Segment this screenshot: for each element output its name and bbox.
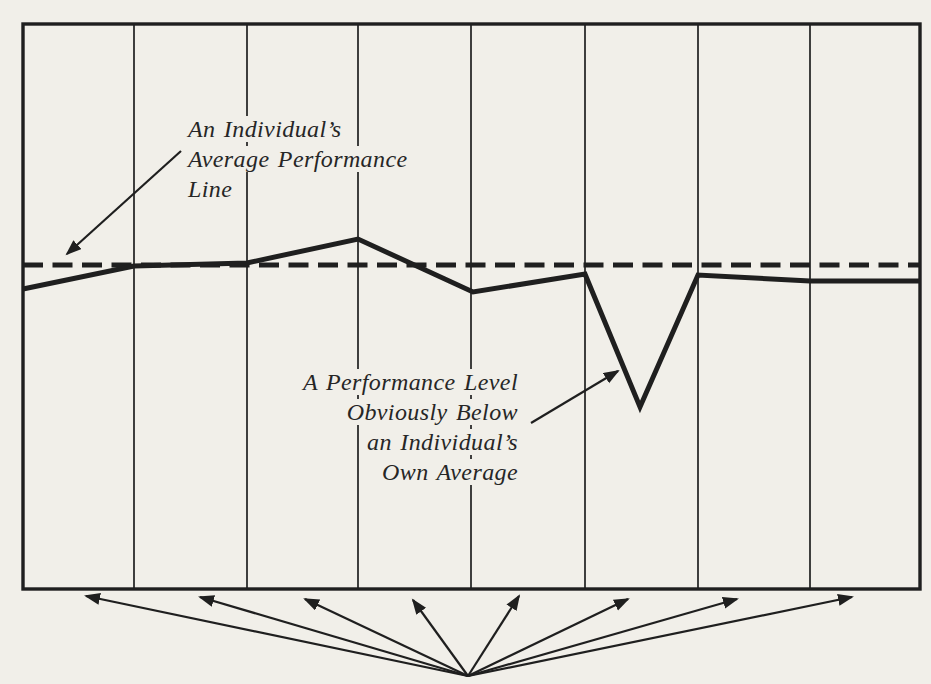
average-label-arrow	[67, 151, 181, 254]
scanned-figure-page: An Individual’s Average Performance Line…	[0, 0, 931, 684]
below-average-label-line-2: Obviously Below	[344, 399, 521, 425]
average-performance-label: An Individual’s Average Performance Line	[185, 114, 411, 204]
fan-arrow	[305, 599, 468, 676]
below-average-label-line-3: an Individual’s	[364, 429, 521, 455]
average-performance-label-line-2: Average Performance	[185, 146, 411, 172]
fan-arrow	[200, 597, 468, 676]
below-average-label-line-1: A Performance Level	[300, 369, 521, 395]
average-performance-label-line-1: An Individual’s	[185, 116, 345, 142]
fan-arrow	[413, 600, 468, 676]
below-average-label: A Performance Level Obviously Below an I…	[300, 367, 521, 487]
below-average-label-line-4: Own Average	[379, 459, 521, 485]
performance-chart	[0, 0, 931, 684]
dip-label-arrow	[531, 371, 618, 423]
average-performance-label-line-3: Line	[185, 176, 235, 202]
fan-arrow	[468, 597, 852, 676]
fan-arrow	[86, 596, 468, 676]
